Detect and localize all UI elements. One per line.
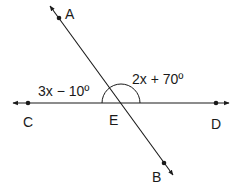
angle-diagram: A B C E D 3x − 10º 2x + 70º [0, 0, 233, 194]
point-a-dot [57, 16, 62, 21]
label-e: E [109, 112, 118, 128]
label-a: A [65, 6, 75, 22]
point-d-dot [214, 101, 219, 106]
angle-aed-expression: 2x + 70º [132, 71, 183, 87]
label-b: B [152, 169, 161, 185]
point-c-dot [26, 101, 31, 106]
angle-cea-expression: 3x − 10º [38, 83, 89, 99]
label-d: D [211, 116, 221, 132]
point-b-dot [162, 161, 167, 166]
label-c: C [23, 114, 33, 130]
